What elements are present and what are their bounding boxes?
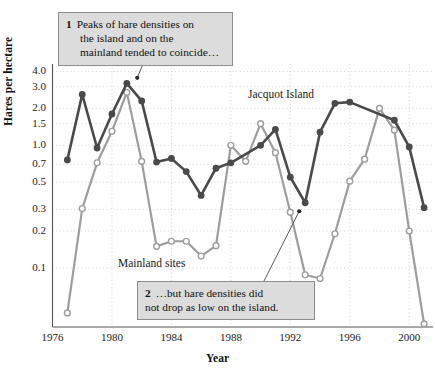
data-point-marker-filled	[287, 174, 294, 181]
data-point-marker-filled	[317, 129, 324, 136]
annotation-1-text-3: mainland tended to coincide…	[66, 45, 224, 59]
data-point-marker-filled	[346, 99, 353, 106]
data-point-marker-filled	[421, 204, 428, 211]
data-point-marker-open	[362, 156, 368, 162]
data-point-marker-open	[64, 310, 70, 316]
annotation-leader-dot	[297, 209, 301, 213]
data-point-marker-open	[213, 243, 219, 249]
x-axis-tick-label: 1996	[328, 331, 372, 343]
series-inline-label: Mainland sites	[118, 257, 185, 269]
annotation-2-line-1: 2…but hare densities did	[145, 286, 306, 300]
x-axis-tick-label: 1976	[31, 331, 75, 343]
data-point-marker-open	[347, 178, 353, 184]
data-point-marker-open	[109, 128, 115, 134]
y-axis-title: Hares per hectare	[2, 37, 14, 126]
y-axis-tick-label: 0.5	[16, 175, 46, 187]
data-point-marker-open	[139, 158, 145, 164]
y-axis-tick-label: 0.1	[16, 261, 46, 273]
data-point-marker-open	[332, 231, 338, 237]
x-axis-tick-label: 1980	[90, 331, 134, 343]
annotation-2-text-2: not drop as low on the island.	[145, 300, 306, 314]
annotation-leader-line	[264, 211, 299, 281]
series-line	[67, 83, 424, 207]
data-point-marker-open	[258, 121, 264, 127]
annotation-1-text-2: the island and on the	[66, 31, 224, 45]
data-point-marker-filled	[227, 159, 234, 166]
x-axis-tick-label: 1984	[149, 331, 193, 343]
data-point-marker-filled	[79, 91, 86, 98]
annotation-leader-dot	[135, 76, 139, 80]
y-axis-tick-label: 4.0	[16, 64, 46, 76]
data-point-marker-open	[273, 150, 279, 156]
annotation-1-number: 1	[66, 18, 72, 30]
data-point-marker-open	[183, 238, 189, 244]
y-axis-tick-label: 2.0	[16, 101, 46, 113]
data-point-marker-filled	[198, 192, 205, 199]
data-point-marker-filled	[332, 100, 339, 107]
annotation-callout-2: 2…but hare densities did not drop as low…	[137, 281, 315, 320]
y-axis-tick-label: 0.7	[16, 157, 46, 169]
data-point-marker-filled	[302, 199, 309, 206]
data-point-marker-open	[228, 142, 234, 148]
data-point-marker-open	[243, 158, 249, 164]
data-point-marker-filled	[272, 126, 279, 133]
data-point-marker-filled	[257, 142, 264, 149]
data-point-marker-open	[287, 209, 293, 215]
annotation-1-line-1: 1Peaks of hare densities on	[66, 17, 224, 31]
data-point-marker-open	[169, 238, 175, 244]
x-axis-tick-label: 1988	[209, 331, 253, 343]
data-point-marker-open	[406, 228, 412, 234]
annotation-2-text-1: …but hare densities did	[156, 287, 264, 299]
chart-container: Hares per hectare Year 4.03.02.01.51.00.…	[0, 0, 435, 372]
data-point-marker-filled	[123, 80, 130, 87]
data-point-marker-filled	[94, 145, 101, 152]
x-axis-tick-label: 1992	[268, 331, 312, 343]
data-point-marker-open	[79, 206, 85, 212]
data-point-marker-open	[391, 127, 397, 133]
series-inline-label: Jacquot Island	[248, 88, 314, 100]
data-point-marker-open	[94, 160, 100, 166]
data-point-marker-open	[421, 321, 427, 327]
data-point-marker-open	[317, 276, 323, 282]
data-point-marker-filled	[109, 111, 116, 118]
x-axis-title: Year	[0, 352, 435, 364]
y-axis-title-wrap: Hares per hectare	[0, 0, 17, 126]
data-point-marker-filled	[406, 144, 413, 151]
data-point-marker-filled	[168, 155, 175, 162]
data-point-marker-open	[377, 105, 383, 111]
data-point-marker-filled	[153, 159, 160, 166]
data-point-marker-filled	[213, 165, 220, 172]
y-axis-tick-label: 0.2	[16, 224, 46, 236]
annotation-callout-1: 1Peaks of hare densities on the island a…	[58, 12, 233, 66]
annotation-1-text-1: Peaks of hare densities on	[77, 18, 194, 30]
y-axis-tick-label: 0.3	[16, 202, 46, 214]
x-axis-tick-label: 2000	[387, 331, 431, 343]
data-point-marker-filled	[138, 98, 145, 105]
data-point-marker-open	[154, 243, 160, 249]
y-axis-tick-label: 3.0	[16, 80, 46, 92]
y-axis-tick-label: 1.0	[16, 138, 46, 150]
data-point-marker-open	[198, 253, 204, 259]
data-point-marker-filled	[391, 117, 398, 124]
y-axis-tick-label: 1.5	[16, 117, 46, 129]
data-point-marker-filled	[183, 168, 190, 175]
data-point-marker-open	[302, 272, 308, 278]
data-point-marker-filled	[64, 157, 71, 164]
annotation-2-number: 2	[145, 287, 151, 299]
